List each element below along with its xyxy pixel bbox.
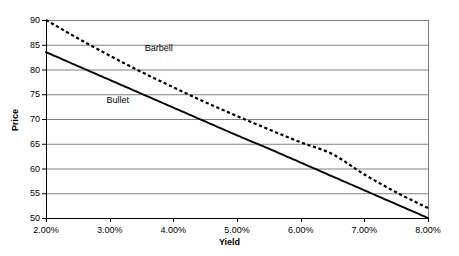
x-tick-label-3: 3.00% [84, 226, 136, 235]
series-annotation-bullet: Bullet [106, 96, 129, 105]
series-line-barbell [46, 20, 428, 208]
y-tick-label-50: 50 [14, 214, 40, 223]
chart-plot-svg [0, 0, 459, 256]
series-line-bullet [46, 52, 428, 218]
x-tick-label-8: 8.00% [402, 226, 454, 235]
y-axis-title: Price [11, 109, 20, 131]
y-tick-label-65: 65 [14, 140, 40, 149]
x-tick-label-4: 4.00% [147, 226, 199, 235]
y-tick-label-60: 60 [14, 165, 40, 174]
x-axis-ticks [42, 21, 429, 223]
y-tick-label-90: 90 [14, 16, 40, 25]
y-tick-label-55: 55 [14, 189, 40, 198]
x-tick-label-5: 5.00% [211, 226, 263, 235]
x-tick-label-7: 7.00% [338, 226, 390, 235]
y-tick-label-75: 75 [14, 90, 40, 99]
x-tick-label-2: 2.00% [20, 226, 72, 235]
series-annotation-barbell: Barbell [145, 44, 173, 53]
x-axis-title: Yield [0, 238, 459, 247]
gridlines [46, 20, 429, 218]
price-yield-chart: 505560657075808590 2.00%3.00%4.00%5.00%6… [0, 0, 459, 256]
y-tick-label-80: 80 [14, 66, 40, 75]
y-tick-label-85: 85 [14, 41, 40, 50]
x-tick-label-6: 6.00% [275, 226, 327, 235]
